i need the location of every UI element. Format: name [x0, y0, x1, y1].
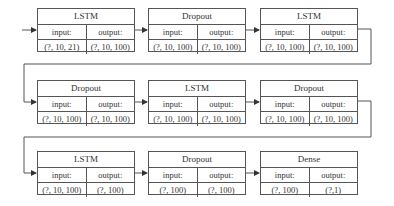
output-label: output:: [197, 97, 246, 111]
output-label: output:: [309, 97, 358, 111]
output-shape: (?, 10, 100): [309, 112, 358, 126]
input-label: input:: [38, 168, 86, 182]
input-shape: (?, 10, 100): [38, 112, 86, 126]
input-label: input:: [261, 97, 309, 111]
output-label: output:: [197, 25, 246, 39]
output-label: output:: [309, 168, 358, 182]
layer-box-dropout-4: Dropout input:output: (?, 100)(?, 100): [148, 151, 246, 195]
output-shape: (?, 100): [197, 183, 246, 197]
input-label: input:: [149, 168, 197, 182]
output-shape: (?,1): [309, 183, 358, 197]
layer-title: Dropout: [38, 81, 134, 97]
output-label: output:: [86, 168, 135, 182]
output-label: output:: [309, 25, 358, 39]
input-label: input:: [149, 97, 197, 111]
input-shape: (?, 100): [261, 183, 309, 197]
layer-box-dropout-3: Dropout input:output: (?, 10, 100)(?, 10…: [260, 80, 358, 124]
input-label: input:: [149, 25, 197, 39]
layer-title: Dense: [261, 152, 357, 168]
layer-title: LSTM: [38, 152, 134, 168]
input-label: input:: [261, 25, 309, 39]
layer-box-lstm-4: LSTM input:output: (?, 10, 100)(?, 100): [37, 151, 135, 195]
layer-box-dropout-2: Dropout input:output: (?, 10, 100)(?, 10…: [37, 80, 135, 124]
input-label: input:: [261, 168, 309, 182]
input-shape: (?, 10, 100): [261, 112, 309, 126]
input-shape: (?, 10, 100): [149, 112, 197, 126]
output-shape: (?, 10, 100): [86, 40, 135, 54]
output-shape: (?, 10, 100): [309, 40, 358, 54]
layer-box-dropout-1: Dropout input:output: (?, 10, 100)(?, 10…: [148, 8, 246, 52]
layer-box-lstm-2: LSTM input:output: (?, 10, 100)(?, 10, 1…: [260, 8, 358, 52]
output-label: output:: [86, 97, 135, 111]
output-shape: (?, 10, 100): [197, 112, 246, 126]
output-label: output:: [197, 168, 246, 182]
layer-title: LSTM: [261, 9, 357, 25]
output-shape: (?, 10, 100): [86, 112, 135, 126]
input-label: input:: [38, 25, 86, 39]
layer-title: Dropout: [149, 152, 245, 168]
layer-title: LSTM: [38, 9, 134, 25]
input-shape: (?, 10, 100): [261, 40, 309, 54]
input-shape: (?, 100): [149, 183, 197, 197]
input-shape: (?, 10, 100): [38, 183, 86, 197]
layer-title: Dropout: [149, 9, 245, 25]
output-shape: (?, 10, 100): [197, 40, 246, 54]
layer-box-dense: Dense input:output: (?, 100)(?,1): [260, 151, 358, 195]
layer-title: Dropout: [261, 81, 357, 97]
output-shape: (?, 100): [86, 183, 135, 197]
layer-box-lstm-3: LSTM input:output: (?, 10, 100)(?, 10, 1…: [148, 80, 246, 124]
input-shape: (?, 10, 100): [149, 40, 197, 54]
output-label: output:: [86, 25, 135, 39]
layer-box-lstm-1: LSTM input:output: (?, 10, 21)(?, 10, 10…: [37, 8, 135, 52]
layer-title: LSTM: [149, 81, 245, 97]
input-label: input:: [38, 97, 86, 111]
input-shape: (?, 10, 21): [38, 40, 86, 54]
